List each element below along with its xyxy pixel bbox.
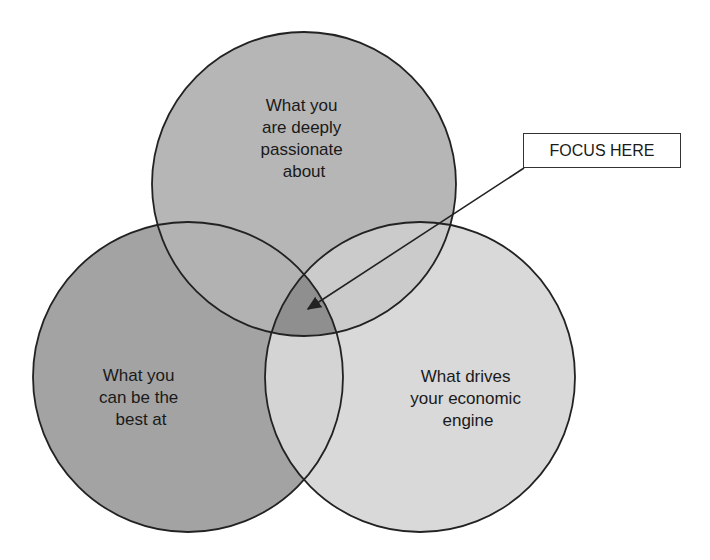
label-line: your economic: [410, 389, 521, 408]
label-line: are deeply: [262, 118, 342, 137]
label-line: about: [283, 162, 326, 181]
label-line: passionate: [261, 140, 343, 159]
label-line: engine: [442, 411, 493, 430]
label-line: can be the: [99, 388, 178, 407]
focus-here-callout: FOCUS HERE: [523, 133, 681, 168]
label-line: What you: [266, 96, 338, 115]
label-line: What you: [103, 366, 175, 385]
venn-diagram: What you are deeply passionate about Wha…: [0, 0, 710, 560]
label-line: What drives: [421, 367, 511, 386]
label-line: best at: [115, 410, 166, 429]
callout-label: FOCUS HERE: [550, 142, 655, 160]
